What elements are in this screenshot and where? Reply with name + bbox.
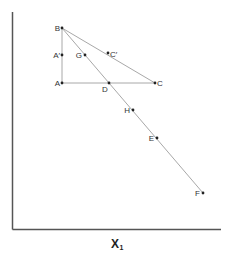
- point-h: H: [124, 106, 134, 115]
- point-label: B: [55, 24, 60, 33]
- x-axis-label-main: X: [111, 237, 119, 251]
- point-marker: [132, 109, 135, 112]
- diagram-canvas: X1 BA′AGC′DCHEF: [0, 0, 234, 254]
- point-f: F: [195, 189, 204, 198]
- point-label: G: [76, 51, 82, 60]
- point-label: C: [157, 79, 163, 88]
- point-label: H: [124, 106, 130, 115]
- point-c: C: [154, 79, 163, 88]
- point-label: E: [149, 134, 154, 143]
- point-marker: [61, 27, 64, 30]
- point-marker: [154, 82, 157, 85]
- point-label: A: [55, 79, 61, 88]
- point-marker: [156, 137, 159, 140]
- point-label: D: [102, 85, 108, 94]
- point-label: F: [195, 189, 200, 198]
- point-label: A′: [53, 51, 60, 60]
- axes: X1: [13, 12, 222, 251]
- point-marker: [61, 82, 64, 85]
- point-marker: [61, 54, 64, 57]
- x-axis-label: X1: [111, 237, 124, 251]
- labeled-points: BA′AGC′DCHEF: [53, 24, 204, 198]
- point-e: E: [149, 134, 159, 143]
- point-marker: [108, 82, 111, 85]
- point-label: C′: [110, 50, 118, 59]
- point-g: G: [76, 51, 87, 60]
- point-marker: [84, 54, 87, 57]
- point-marker: [202, 192, 205, 195]
- point-marker: [107, 52, 110, 55]
- x-axis-label-subscript: 1: [120, 244, 124, 251]
- point-c-prime: C′: [107, 50, 118, 59]
